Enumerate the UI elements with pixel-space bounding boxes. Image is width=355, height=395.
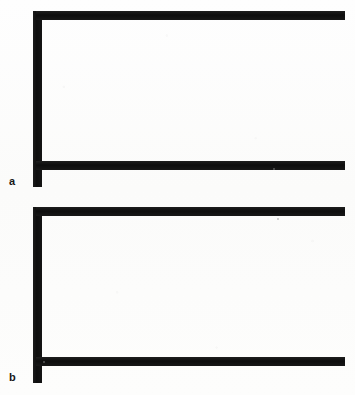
figure-root: a b [0,0,355,395]
scan-speck [43,361,45,363]
panel-label-a: a [9,176,15,187]
panel-a-top-bar [36,11,345,20]
panel-a-bottom-bar [36,161,345,170]
scan-speck [273,168,275,170]
panel-label-b: b [9,372,16,383]
panel-b-bottom-bar [36,357,345,366]
paper-grain-overlay [0,0,355,395]
scan-speck [277,218,279,220]
panel-b-top-bar [36,207,345,216]
